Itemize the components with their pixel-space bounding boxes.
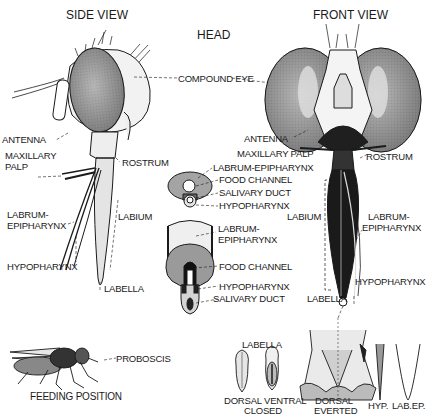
label-side-rostrum: ROSTRUM	[122, 158, 169, 168]
label-front-rostrum: ROSTRUM	[366, 152, 413, 162]
label-side-hypopharynx: HYPOPHARYNX	[7, 262, 77, 272]
label-side-labrum-2: EPIPHARYNX	[7, 221, 66, 231]
label-side-maxillary-1: MAXILLARY	[5, 151, 56, 161]
label-side-maxillary-2: PALP	[5, 162, 28, 172]
label-front-maxillary-palp: MAXILLARY PALP	[237, 149, 313, 159]
label-side-labella: LABELLA	[104, 284, 144, 294]
label-long-labrum-2: EPIPHARYNX	[218, 235, 277, 245]
diagram-artwork	[0, 0, 426, 419]
longitudinal-section	[166, 221, 218, 315]
label-long-food-channel: FOOD CHANNEL	[219, 262, 292, 272]
label-side-labium: LABIUM	[118, 212, 152, 222]
label-labep: LAB.EP.	[392, 401, 425, 411]
title-front-view: FRONT VIEW	[313, 8, 388, 22]
feeding-fly	[10, 348, 116, 390]
label-front-hypopharynx: HYPOPHARYNX	[355, 277, 425, 287]
cross-section	[168, 168, 218, 207]
label-cs-salivary-duct: SALIVARY DUCT	[219, 188, 291, 198]
label-front-labella: LABELLA	[307, 294, 347, 304]
label-front-labrum-1: LABRUM-	[368, 212, 409, 222]
label-hyp: HYP.	[368, 401, 388, 411]
label-compound-eye: COMPOUND EYE	[178, 74, 254, 84]
label-side-antenna: ANTENNA	[2, 135, 46, 145]
label-closed: CLOSED	[244, 406, 282, 416]
label-cs-labrum: LABRUM-EPIPHARYNX	[213, 163, 313, 173]
label-long-labrum-1: LABRUM-	[218, 224, 259, 234]
label-feeding-position: FEEDING POSITION	[30, 392, 122, 402]
title-side-view: SIDE VIEW	[66, 8, 128, 22]
label-side-labrum-1: LABRUM-	[7, 210, 48, 220]
label-front-antenna: ANTENNA	[244, 134, 288, 144]
label-front-labium: LABIUM	[287, 212, 321, 222]
label-front-labrum-2: EPIPHARYNX	[362, 223, 421, 233]
title-head: HEAD	[197, 28, 230, 42]
label-proboscis: PROBOSCIS	[116, 354, 171, 364]
label-cs-hypopharynx: HYPOPHARYNX	[219, 201, 289, 211]
label-long-hypopharynx: HYPOPHARYNX	[219, 282, 289, 292]
label-labella-title: LABELLA	[242, 340, 282, 350]
label-long-salivary-duct: SALIVARY DUCT	[213, 294, 285, 304]
label-everted: EVERTED	[314, 406, 357, 416]
label-cs-food-channel: FOOD CHANNEL	[219, 175, 292, 185]
labella-details	[236, 318, 420, 400]
